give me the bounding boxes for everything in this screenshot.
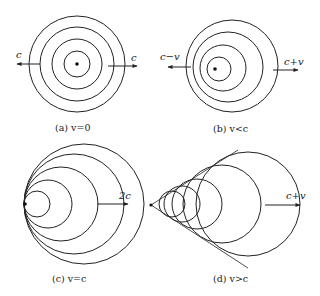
source-dot-c bbox=[23, 202, 27, 206]
label-left-b: c−v bbox=[160, 51, 180, 62]
caption-d: (d) v>c bbox=[213, 273, 248, 284]
wavefront-circle bbox=[193, 32, 263, 102]
wavefront-circle bbox=[172, 179, 222, 229]
wavefront-circles-b bbox=[186, 20, 278, 112]
wavefront-circle bbox=[207, 57, 231, 81]
mach-cone-lower bbox=[151, 205, 248, 268]
label-right-b: c+v bbox=[284, 56, 304, 67]
source-dot-a bbox=[75, 62, 79, 66]
mach-cone-upper bbox=[151, 150, 238, 205]
source-dot-d bbox=[149, 203, 152, 206]
panel-d bbox=[151, 150, 300, 268]
wavefront-circles-d bbox=[159, 152, 300, 256]
caption-b: (b) v<c bbox=[213, 123, 248, 134]
caption-c: (c) v=c bbox=[52, 273, 86, 284]
wavefront-circle bbox=[196, 152, 300, 256]
wavefront-circle bbox=[24, 167, 98, 241]
label-right-c: 2c bbox=[118, 190, 131, 201]
panel-b bbox=[168, 20, 298, 112]
source-dot-b bbox=[213, 67, 217, 71]
caption-a: (a) v=0 bbox=[55, 122, 90, 133]
wave-propagation-figure: c c (a) v=0 c−v c+v (b) v<c 2c (c) v=c c… bbox=[0, 0, 320, 296]
wavefront-circle bbox=[24, 180, 72, 228]
panel-c bbox=[24, 144, 144, 264]
label-right-a: c bbox=[131, 52, 137, 63]
label-right-d: c+v bbox=[286, 190, 306, 201]
wavefront-circle bbox=[24, 191, 50, 217]
label-left-a: c bbox=[16, 49, 22, 60]
